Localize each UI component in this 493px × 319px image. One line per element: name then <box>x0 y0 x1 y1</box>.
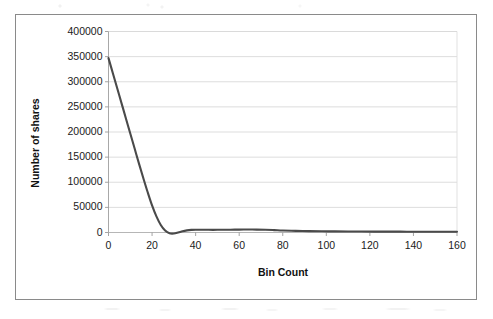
x-tick-label: 100 <box>306 240 346 251</box>
y-axis-title: Number of shares <box>26 78 44 208</box>
x-tick-label: 140 <box>393 240 433 251</box>
y-axis-title-label: Number of shares <box>29 98 41 187</box>
x-tick-label: 40 <box>176 240 216 251</box>
x-tick-label: 80 <box>263 240 303 251</box>
y-tick-label: 100000 <box>43 176 103 187</box>
y-tick-label: 300000 <box>43 76 103 87</box>
x-tick-label: 160 <box>437 240 477 251</box>
y-tick-label: 400000 <box>43 26 103 37</box>
y-tick-label: 250000 <box>43 101 103 112</box>
x-axis-title: Bin Count <box>108 266 458 278</box>
y-tick-label: 150000 <box>43 151 103 162</box>
y-tick-label: 200000 <box>43 126 103 137</box>
y-tick-label: 0 <box>43 227 103 238</box>
x-tick-label: 20 <box>132 240 172 251</box>
x-tick-label: 0 <box>89 240 129 251</box>
y-tick-label: 50000 <box>43 201 103 212</box>
x-tick-label: 60 <box>219 240 259 251</box>
x-tick-label: 120 <box>350 240 390 251</box>
y-tick-label: 350000 <box>43 51 103 62</box>
